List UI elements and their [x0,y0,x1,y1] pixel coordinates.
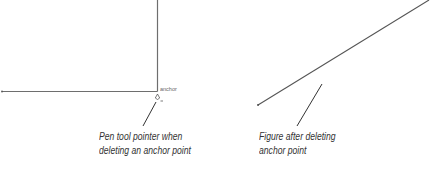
right-diagonal-path [258,0,429,105]
left-caption: Pen tool pointer when deleting an anchor… [99,130,191,157]
diagram-canvas [0,0,432,170]
right-caption: Figure after deleting anchor point [259,130,336,157]
right-caption-line: anchor point [259,144,336,158]
left-caption-line: Pen tool pointer when [99,130,191,144]
anchor-label: anchor [160,86,177,92]
right-leader-line [297,84,322,126]
left-endpoint [1,91,3,93]
left-leader-line [143,102,156,126]
left-caption-line: deleting an anchor point [99,144,191,158]
right-endpoint [257,104,259,106]
pen-delete-anchor-pointer-icon [155,94,163,101]
right-caption-line: Figure after deleting [259,130,336,144]
